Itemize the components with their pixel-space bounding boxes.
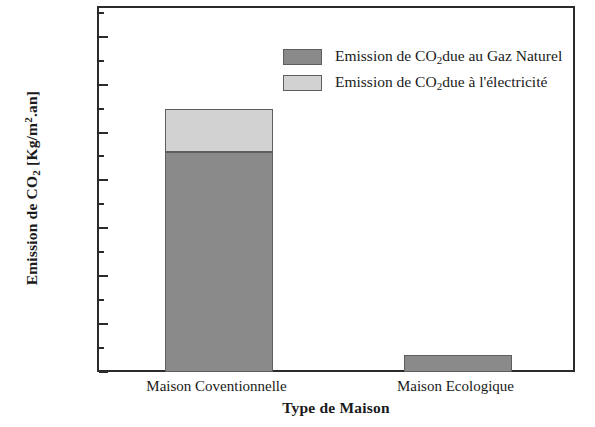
x-axis-title: Type de Maison	[97, 399, 575, 417]
y-tick-major	[99, 227, 108, 229]
legend-label-gaz-naturel: Emission de CO2due au Gaz Naturel	[335, 47, 562, 66]
y-axis-title-prefix: Emission de CO	[23, 176, 40, 286]
chart-figure: Emission de CO2 [Kg/m2.an] 0204060801001…	[0, 0, 595, 427]
y-tick-major	[99, 323, 108, 325]
chart-legend: Emission de CO2due au Gaz Naturel Emissi…	[283, 44, 595, 96]
legend-label-electricite: Emission de CO2due à l'électricité	[335, 73, 547, 92]
x-tick-label: Maison Ecologique	[336, 378, 576, 395]
legend-label-prefix: Emission de CO	[335, 47, 437, 64]
y-tick-minor	[99, 108, 104, 110]
y-axis-title: Emission de CO2 [Kg/m2.an]	[22, 18, 42, 358]
y-axis-title-units-open: [Kg/m	[23, 123, 40, 170]
bar-segment	[165, 109, 273, 152]
y-tick-major	[99, 371, 108, 373]
bar-segment	[165, 152, 273, 372]
legend-swatch-gaz-naturel	[283, 49, 322, 65]
y-tick-major	[99, 84, 108, 86]
legend-swatch-electricite	[283, 75, 322, 91]
y-axis-title-subscript: 2	[30, 170, 42, 176]
legend-label-suffix: due à l'électricité	[442, 73, 547, 90]
y-tick-minor	[99, 347, 104, 349]
y-tick-major	[99, 179, 108, 181]
legend-label-suffix: due au Gaz Naturel	[442, 47, 562, 64]
y-axis-title-units-superscript: 2	[22, 117, 34, 123]
x-tick-label: Maison Coventionnelle	[97, 378, 337, 395]
y-tick-major	[99, 36, 108, 38]
plot-area: 020406080100120140 Emission de CO2due au…	[97, 6, 575, 372]
y-axis-title-units-close: .an]	[23, 91, 40, 117]
y-tick-minor	[99, 12, 104, 14]
y-tick-minor	[99, 251, 104, 253]
legend-item-electricite: Emission de CO2due à l'électricité	[283, 70, 595, 96]
legend-item-gaz-naturel: Emission de CO2due au Gaz Naturel	[283, 44, 595, 70]
y-tick-minor	[99, 299, 104, 301]
y-tick-minor	[99, 155, 104, 157]
bar-segment	[404, 355, 512, 372]
legend-label-prefix: Emission de CO	[335, 73, 437, 90]
y-tick-major	[99, 132, 108, 134]
y-tick-major	[99, 275, 108, 277]
y-tick-minor	[99, 203, 104, 205]
y-tick-minor	[99, 60, 104, 62]
